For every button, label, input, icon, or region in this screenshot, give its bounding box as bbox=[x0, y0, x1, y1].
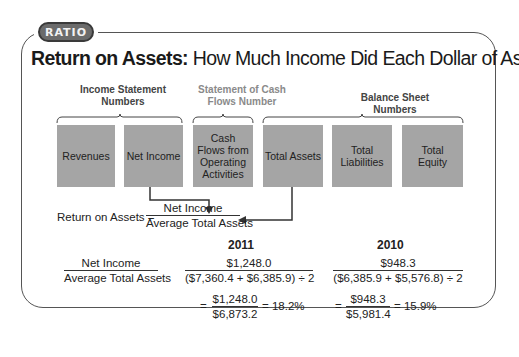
calc-2011-result: = 18.2% bbox=[262, 300, 305, 312]
formula-lhs: Return on Assets = bbox=[57, 211, 155, 223]
year-2011: 2011 bbox=[228, 238, 254, 252]
calc-2010-eq: = bbox=[335, 300, 342, 312]
label-denominator: Average Total Assets bbox=[64, 270, 158, 284]
calc-2011-numerator: $1,248.0 bbox=[185, 257, 313, 270]
calc-2010-numerator: $948.3 bbox=[333, 257, 463, 270]
box-label: Total Liabilities bbox=[340, 144, 384, 168]
box-total-liabilities: Total Liabilities bbox=[332, 125, 392, 187]
box-label: Net Income bbox=[127, 150, 181, 162]
calc-2011-denominator: ($7,360.4 + $6,385.9) ÷ 2 bbox=[185, 270, 313, 284]
box-label: Total Equity bbox=[412, 144, 453, 168]
label-fraction: Net Income Average Total Assets bbox=[64, 257, 158, 284]
calc-2010-fraction: $948.3 ($6,385.9 + $5,576.8) ÷ 2 bbox=[333, 257, 463, 284]
calc-2011-simp-denominator: $6,873.2 bbox=[212, 306, 258, 320]
box-total-equity: Total Equity bbox=[402, 125, 463, 187]
formula-lhs-text: Return on Assets bbox=[57, 211, 145, 223]
calc-2011-simplified: $1,248.0 $6,873.2 bbox=[212, 293, 258, 320]
label-numerator: Net Income bbox=[64, 257, 158, 270]
calc-2010-simp-denominator: $5,981.4 bbox=[346, 306, 390, 320]
calc-2010-result: = 15.9% bbox=[394, 300, 437, 312]
formula-numerator: Net Income bbox=[146, 202, 240, 215]
box-label: Cash Flows from Operating Activities bbox=[197, 132, 249, 180]
box-label: Revenues bbox=[62, 150, 109, 162]
calc-2010-denominator: ($6,385.9 + $5,576.8) ÷ 2 bbox=[333, 270, 463, 284]
formula-fraction: Net Income Average Total Assets bbox=[146, 202, 240, 229]
box-cash-flows-operating: Cash Flows from Operating Activities bbox=[193, 125, 253, 187]
formula-denominator: Average Total Assets bbox=[146, 215, 240, 229]
year-2010: 2010 bbox=[377, 238, 404, 252]
calc-2010-simplified: $948.3 $5,981.4 bbox=[346, 293, 390, 320]
calc-2011-simp-numerator: $1,248.0 bbox=[212, 293, 258, 306]
box-total-assets: Total Assets bbox=[263, 125, 323, 187]
calc-2011-eq: = bbox=[200, 300, 207, 312]
calc-2010-simp-numerator: $948.3 bbox=[346, 293, 390, 306]
box-revenues: Revenues bbox=[57, 125, 115, 187]
box-label: Total Assets bbox=[265, 150, 321, 162]
calc-2011-fraction: $1,248.0 ($7,360.4 + $6,385.9) ÷ 2 bbox=[185, 257, 313, 284]
box-net-income: Net Income bbox=[124, 125, 183, 187]
